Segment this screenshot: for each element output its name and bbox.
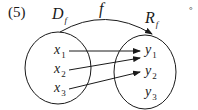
range-element-y1: y1 bbox=[145, 43, 157, 57]
problem-number: (5) bbox=[8, 5, 26, 20]
arrow-x3-to-y2 bbox=[69, 72, 140, 89]
function-arc-arrow bbox=[60, 19, 152, 34]
trailing-mark: ° bbox=[189, 6, 193, 15]
range-element-y3: y3 bbox=[145, 85, 157, 99]
domain-element-x1: x1 bbox=[54, 43, 66, 57]
domain-label: Df bbox=[52, 6, 67, 22]
range-element-y2: y2 bbox=[145, 64, 157, 78]
domain-element-x3: x3 bbox=[54, 81, 66, 95]
function-label: f bbox=[99, 1, 103, 17]
arrow-x2-to-y1 bbox=[69, 58, 140, 70]
domain-element-x2: x2 bbox=[54, 62, 66, 76]
range-label: Rf bbox=[145, 10, 158, 26]
